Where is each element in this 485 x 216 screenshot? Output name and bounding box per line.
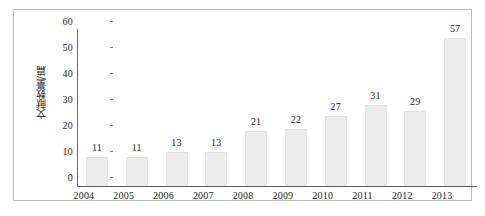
x-axis-tick-label: 2004 (64, 190, 104, 201)
bar-value-label: 22 (276, 114, 316, 125)
bar-value-label: 57 (435, 23, 475, 34)
y-axis-tick-mark (110, 21, 113, 22)
x-axis-line (77, 186, 477, 187)
x-axis-tick-label: 2007 (183, 190, 223, 201)
figure-frame: 文献数量/篇 0102030405060 1111131321222731295… (13, 9, 472, 201)
y-axis-tick-label: 40 (63, 68, 73, 79)
bar (325, 116, 347, 186)
bar (205, 152, 227, 186)
y-axis-tick-label: 20 (63, 120, 73, 131)
x-axis-tick-label: 2005 (104, 190, 144, 201)
bar (126, 157, 148, 186)
bar-value-label: 11 (77, 142, 117, 153)
x-axis-tick-label: 2008 (223, 190, 263, 201)
bar-value-label: 13 (196, 137, 236, 148)
bar-value-label: 27 (316, 101, 356, 112)
y-axis-tick-labels: 0102030405060 (50, 10, 73, 216)
bar (365, 105, 387, 186)
y-axis-tick-label: 0 (68, 172, 73, 183)
y-axis-tick-label: 60 (63, 16, 73, 27)
y-axis-tick-label: 50 (63, 42, 73, 53)
y-axis-tick-label: 30 (63, 94, 73, 105)
bar (285, 129, 307, 186)
x-axis-tick-label: 2013 (422, 190, 462, 201)
bar-value-label: 31 (356, 90, 396, 101)
x-axis-tick-label: 2011 (343, 190, 383, 201)
y-axis-title: 文献数量/篇 (36, 66, 50, 119)
x-axis-tick-label: 2009 (263, 190, 303, 201)
bar-value-label: 13 (157, 137, 197, 148)
bar-value-label: 11 (117, 142, 157, 153)
plot-area: 11111313212227312957 (77, 30, 475, 186)
bar (166, 152, 188, 186)
x-axis-tick-label: 2010 (303, 190, 343, 201)
bar (404, 111, 426, 186)
x-axis-tick-label: 2006 (144, 190, 184, 201)
bar-value-label: 29 (395, 96, 435, 107)
bar-value-label: 21 (236, 116, 276, 127)
chart-screenshot: 文献数量/篇 0102030405060 1111131321222731295… (0, 0, 485, 216)
y-axis-tick-label: 10 (63, 146, 73, 157)
bar (245, 131, 267, 186)
bar (86, 157, 108, 186)
bar (444, 38, 466, 186)
x-axis-tick-label: 2012 (382, 190, 422, 201)
